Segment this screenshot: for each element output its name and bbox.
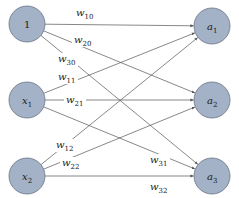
network-diagram: w10w20w30w11w21w31w12w22w32 1x1x2a1a2a3 bbox=[0, 0, 239, 198]
weight-label-layer: w10w20w30w11w21w31w12w22w32 bbox=[54, 7, 170, 195]
node-bias: 1 bbox=[9, 6, 45, 42]
node-a2: a2 bbox=[194, 82, 230, 118]
weight-label-w11: w11 bbox=[56, 71, 78, 85]
weight-label-w22: w22 bbox=[60, 157, 82, 171]
weight-label-w30: w30 bbox=[56, 53, 78, 67]
node-x2: x2 bbox=[9, 158, 45, 194]
weight-label-w10: w10 bbox=[74, 7, 96, 21]
weight-label-w12: w12 bbox=[54, 139, 76, 153]
node-a3: a3 bbox=[194, 158, 230, 194]
weight-label-w20: w20 bbox=[72, 34, 94, 48]
node-a1: a1 bbox=[194, 8, 230, 44]
svg-text:1: 1 bbox=[24, 19, 30, 30]
edge-bias-to-a1 bbox=[45, 24, 194, 26]
weight-label-w21: w21 bbox=[64, 94, 86, 108]
node-x1: x1 bbox=[9, 82, 45, 118]
weight-label-w32: w32 bbox=[148, 181, 170, 195]
weight-label-w31: w31 bbox=[148, 154, 170, 168]
